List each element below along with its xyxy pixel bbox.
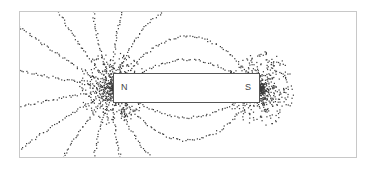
bar-magnet: N S xyxy=(113,73,260,103)
south-pole-label: S xyxy=(245,82,251,92)
north-pole-label: N xyxy=(121,82,128,92)
